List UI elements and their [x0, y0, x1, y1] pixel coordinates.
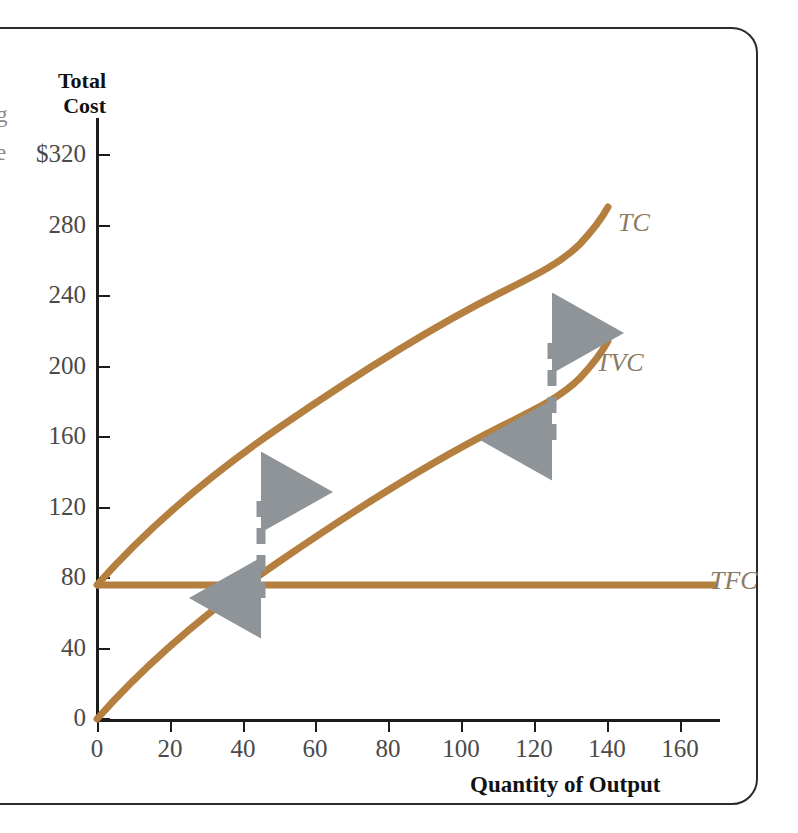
x-tick	[243, 719, 245, 732]
y-tick	[96, 648, 110, 650]
x-tick-label: 20	[135, 735, 205, 763]
x-tick	[461, 719, 463, 732]
figure-frame	[0, 27, 758, 805]
x-tick	[170, 719, 172, 732]
y-tick	[96, 436, 110, 438]
x-axis-line	[96, 719, 720, 722]
y-tick-label: 40	[61, 634, 86, 662]
edge-text-fragment: g e	[0, 96, 18, 172]
x-tick-label: 60	[280, 735, 350, 763]
x-tick	[680, 719, 682, 732]
x-tick	[97, 719, 99, 732]
y-axis-title-line2: Cost	[18, 93, 106, 118]
x-tick-label: 80	[353, 735, 423, 763]
x-axis-title: Quantity of Output	[470, 772, 660, 798]
y-tick-label: 120	[49, 493, 87, 521]
y-tick-label: 80	[61, 563, 86, 591]
x-tick-label: 0	[62, 735, 132, 763]
y-tick	[96, 366, 110, 368]
x-tick-label: 100	[426, 735, 496, 763]
x-tick-label: 40	[208, 735, 278, 763]
y-axis-title-line1: Total	[18, 68, 106, 93]
tfc-curve-label: TFC	[710, 566, 758, 596]
tvc-curve-label: TVC	[596, 348, 644, 378]
y-tick-label: 240	[49, 281, 87, 309]
y-tick	[96, 225, 110, 227]
x-tick	[388, 719, 390, 732]
x-tick-label: 120	[499, 735, 569, 763]
y-axis-title: Total Cost	[18, 68, 106, 118]
y-tick-label: 0	[74, 704, 87, 732]
y-tick-label: 160	[49, 422, 87, 450]
x-tick	[315, 719, 317, 732]
x-tick-label: 160	[645, 735, 715, 763]
figure-container: g e Total Cost $320 280 240 200 160 120 …	[0, 0, 798, 833]
y-tick-label: 200	[49, 352, 87, 380]
y-axis-line	[96, 118, 99, 722]
y-tick	[96, 577, 110, 579]
y-tick	[96, 507, 110, 509]
y-tick	[96, 295, 110, 297]
x-tick	[534, 719, 536, 732]
x-tick-label: 140	[572, 735, 642, 763]
y-tick-label: $320	[36, 140, 86, 168]
x-tick	[607, 719, 609, 732]
tc-curve-label: TC	[618, 208, 650, 238]
y-tick	[96, 154, 110, 156]
y-tick-label: 280	[49, 211, 87, 239]
